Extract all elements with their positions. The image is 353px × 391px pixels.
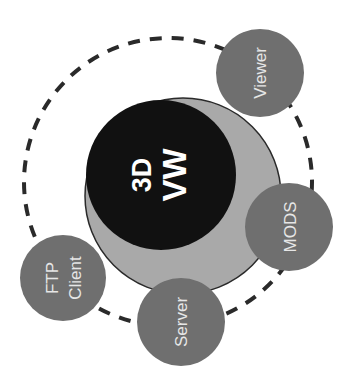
ecosystem-diagram: 3D VW Viewer MODS Server FTP Client (0, 0, 353, 391)
satellite-label: FTP (43, 262, 62, 294)
satellite-server[interactable]: Server (137, 278, 225, 366)
satellite-ftp-client[interactable]: FTP Client (20, 235, 106, 321)
core-label-vw: VW (156, 148, 193, 202)
satellite-label: Server (172, 297, 191, 347)
satellite-label-line2: Client (66, 256, 85, 300)
satellite-label: Viewer (251, 47, 270, 99)
satellite-mods[interactable]: MODS (245, 183, 333, 271)
core-label-3d: 3D (127, 158, 157, 193)
satellite-label: MODS (281, 202, 300, 253)
satellite-viewer[interactable]: Viewer (216, 29, 304, 117)
